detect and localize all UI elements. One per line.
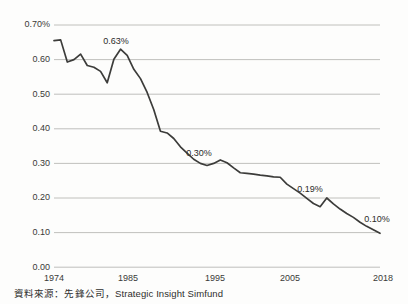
x-tick-label: 1974 <box>44 273 64 283</box>
expense-ratio-chart: 0.70% 0.60 0.50 0.40 0.30 0.20 0.10 0.00… <box>0 0 408 304</box>
data-label-0.30: 0.30% <box>186 148 212 158</box>
gridlines <box>54 25 380 267</box>
data-point-labels: 0.63% 0.30% 0.19% 0.10% <box>103 36 390 224</box>
expense-ratio-line <box>54 40 380 233</box>
y-tick-label: 0.40 <box>32 123 50 133</box>
y-tick-label: 0.30 <box>32 158 50 168</box>
y-tick-label: 0.00 <box>32 262 50 272</box>
y-tick-label: 0.20 <box>32 192 50 202</box>
x-tick-label: 2018 <box>373 273 393 283</box>
data-label-0.19: 0.19% <box>297 184 323 194</box>
x-tick-label: 2005 <box>280 273 300 283</box>
y-tick-label: 0.50 <box>32 89 50 99</box>
x-tick-label: 1985 <box>118 273 138 283</box>
y-tick-label: 0.10 <box>32 227 50 237</box>
y-axis-labels: 0.70% 0.60 0.50 0.40 0.30 0.20 0.10 0.00 <box>24 19 50 271</box>
source-note: 資料來源：先鋒公司，Strategic Insight Simfund <box>14 286 223 300</box>
y-tick-label: 0.60 <box>32 54 50 64</box>
y-tick-label: 0.70% <box>24 19 50 29</box>
chart-canvas: 0.70% 0.60 0.50 0.40 0.30 0.20 0.10 0.00… <box>0 0 408 304</box>
data-label-0.63: 0.63% <box>103 36 129 46</box>
data-label-0.10: 0.10% <box>364 214 390 224</box>
x-axis-labels: 1974 1985 1995 2005 2018 <box>44 273 393 283</box>
x-tick-label: 1995 <box>205 273 225 283</box>
